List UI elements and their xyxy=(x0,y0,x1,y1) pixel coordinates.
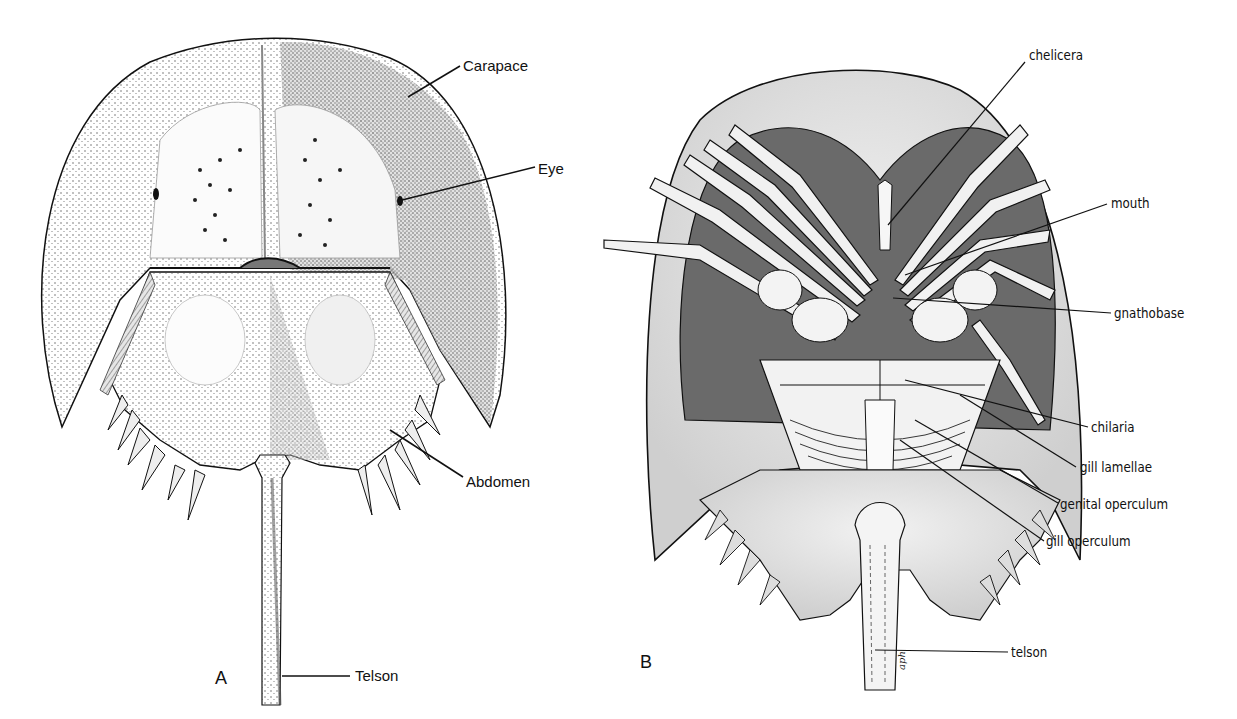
label-genital-operculum: genital operculum xyxy=(1060,497,1168,511)
label-mouth: mouth xyxy=(1111,196,1150,210)
label-gill-lamellae: gill lamellae xyxy=(1080,460,1152,474)
label-telson-a: Telson xyxy=(355,668,398,683)
panel-letter-b: B xyxy=(640,652,652,673)
horseshoe-crab-figure: Carapace Eye Abdomen Telson A chelicera … xyxy=(0,0,1237,719)
artist-signature: aph xyxy=(896,651,907,670)
panel-letter-a: A xyxy=(215,668,227,689)
label-abdomen: Abdomen xyxy=(466,474,530,489)
label-gnathobase: gnathobase xyxy=(1114,306,1184,320)
panel-b-drawing xyxy=(604,70,1082,690)
label-eye: Eye xyxy=(538,161,564,176)
label-gill-operculum: gill operculum xyxy=(1046,534,1131,548)
label-carapace: Carapace xyxy=(463,58,528,73)
illustration-canvas xyxy=(0,0,1237,719)
label-chilaria: chilaria xyxy=(1091,420,1134,434)
panel-a-drawing xyxy=(42,38,506,705)
label-telson-b: telson xyxy=(1011,645,1047,659)
label-chelicera: chelicera xyxy=(1029,48,1083,62)
